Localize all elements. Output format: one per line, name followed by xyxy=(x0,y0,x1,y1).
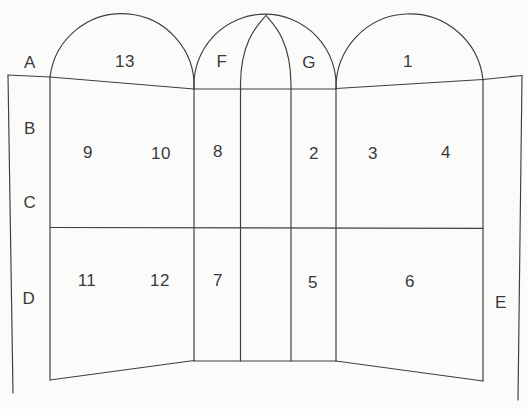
right-wing-top-line xyxy=(336,80,483,89)
middle-rail-line xyxy=(50,228,483,229)
left-wing-top-line xyxy=(50,77,194,89)
left-strip-top-line xyxy=(8,75,50,77)
panel-number-8: 8 xyxy=(213,143,223,160)
right-outer-edge-line xyxy=(518,76,522,401)
panel-number-2: 2 xyxy=(309,145,319,162)
left-wing-bottom-line xyxy=(50,361,194,381)
panel-number-6: 6 xyxy=(405,273,415,290)
frame-label-b: B xyxy=(24,120,36,137)
frame-label-g: G xyxy=(302,54,316,71)
right-strip-top-line xyxy=(483,76,522,80)
panel-number-7: 7 xyxy=(213,272,223,289)
panel-number-13: 13 xyxy=(115,53,135,70)
altarpiece-panel-diagram: A B C D E F G 1 2 3 4 5 6 7 8 9 10 11 12… xyxy=(0,0,527,409)
frame-label-e: E xyxy=(495,294,507,311)
frame-label-d: D xyxy=(23,290,36,307)
frame-label-a: A xyxy=(24,54,36,71)
panel-number-12: 12 xyxy=(150,272,170,289)
frame-label-f: F xyxy=(217,53,228,70)
panel-number-1: 1 xyxy=(403,53,413,70)
right-wing-bottom-line xyxy=(336,361,483,381)
centre-panel-left-ogee-line xyxy=(241,16,267,362)
centre-panel-right-ogee-line xyxy=(266,16,291,362)
panel-number-4: 4 xyxy=(441,144,451,161)
frame-label-c: C xyxy=(24,194,37,211)
panel-number-3: 3 xyxy=(368,145,378,162)
panel-number-10: 10 xyxy=(151,145,171,162)
panel-number-5: 5 xyxy=(308,274,318,291)
panel-number-9: 9 xyxy=(83,144,93,161)
diagram-line-art xyxy=(0,0,527,409)
left-outer-edge-line xyxy=(8,75,13,393)
panel-number-11: 11 xyxy=(78,272,97,289)
